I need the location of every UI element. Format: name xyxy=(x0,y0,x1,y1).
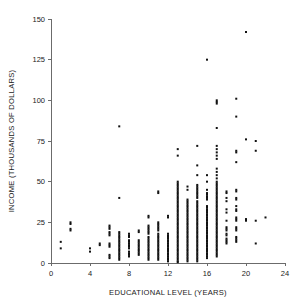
scatter-chart: 0255075100125150 04812162024 EDUCATIONAL… xyxy=(0,0,304,302)
data-point xyxy=(235,229,237,231)
data-point xyxy=(255,242,257,244)
data-point xyxy=(196,260,198,262)
y-tick-label: 75 xyxy=(37,137,45,146)
data-point xyxy=(138,254,140,256)
data-point xyxy=(235,241,237,243)
data-point xyxy=(157,192,159,194)
data-point xyxy=(255,140,257,142)
data-point xyxy=(235,190,237,192)
x-tick-label: 4 xyxy=(88,269,92,278)
x-tick-label: 20 xyxy=(242,269,250,278)
data-point xyxy=(235,210,237,212)
data-point xyxy=(255,220,257,222)
data-point xyxy=(196,164,198,166)
data-point xyxy=(109,228,111,230)
data-point xyxy=(206,181,208,183)
y-tick-label: 50 xyxy=(37,177,45,186)
data-point xyxy=(216,151,218,153)
data-point xyxy=(226,212,228,214)
data-point xyxy=(216,171,218,173)
data-points-layer xyxy=(60,31,267,263)
data-point xyxy=(235,205,237,207)
data-point xyxy=(245,220,247,222)
y-tick-label: 100 xyxy=(32,96,45,105)
x-tick-label: 12 xyxy=(164,269,172,278)
data-point xyxy=(216,103,218,105)
data-point xyxy=(235,220,237,222)
data-point xyxy=(187,260,189,262)
data-point xyxy=(187,186,189,188)
data-point xyxy=(206,189,208,191)
data-point xyxy=(89,251,91,253)
data-point xyxy=(60,247,62,249)
data-point xyxy=(226,234,228,236)
data-point xyxy=(255,150,257,152)
data-point xyxy=(109,234,111,236)
data-point xyxy=(245,138,247,140)
data-point xyxy=(70,223,72,225)
data-point xyxy=(226,220,228,222)
data-point xyxy=(226,242,228,244)
data-point xyxy=(148,216,150,218)
data-point xyxy=(70,229,72,231)
data-point xyxy=(226,229,228,231)
data-point xyxy=(206,199,208,201)
data-point xyxy=(216,255,218,257)
data-point xyxy=(128,255,130,257)
data-point xyxy=(118,259,120,261)
data-point xyxy=(235,199,237,201)
x-tick-label: 0 xyxy=(49,269,53,278)
y-axis-title: INCOME (THOUSANDS OF DOLLARS) xyxy=(7,69,16,212)
data-point xyxy=(216,127,218,129)
data-point xyxy=(128,247,130,249)
data-point xyxy=(226,200,228,202)
data-point xyxy=(206,174,208,176)
data-point xyxy=(216,148,218,150)
data-point xyxy=(216,158,218,160)
chart-canvas: 0255075100125150 04812162024 EDUCATIONAL… xyxy=(0,0,304,302)
data-point xyxy=(216,168,218,170)
data-point xyxy=(206,257,208,259)
data-point xyxy=(265,216,267,218)
x-tick-label: 16 xyxy=(203,269,211,278)
x-tick-label: 24 xyxy=(281,269,289,278)
y-tick-label: 25 xyxy=(37,218,45,227)
data-point xyxy=(60,241,62,243)
y-tick-label: 150 xyxy=(32,15,45,24)
data-point xyxy=(109,257,111,259)
data-point xyxy=(196,197,198,199)
data-point xyxy=(157,259,159,261)
x-axis: 04812162024 xyxy=(49,263,289,278)
data-point xyxy=(235,116,237,118)
data-point xyxy=(216,177,218,179)
data-point xyxy=(206,59,208,61)
data-point xyxy=(177,261,179,263)
data-point xyxy=(235,161,237,163)
data-point xyxy=(99,244,101,246)
data-point xyxy=(226,208,228,210)
data-point xyxy=(109,246,111,248)
x-tick-label: 8 xyxy=(127,269,131,278)
y-axis-ticks: 0255075100125150 xyxy=(32,15,51,268)
data-point xyxy=(226,192,228,194)
data-point xyxy=(89,247,91,249)
data-point xyxy=(216,155,218,157)
data-point xyxy=(118,125,120,127)
data-point xyxy=(235,151,237,153)
data-point xyxy=(226,197,228,199)
data-point xyxy=(216,145,218,147)
x-axis-title: EDUCATIONAL LEVEL (YEARS) xyxy=(109,288,227,297)
data-point xyxy=(177,148,179,150)
data-point xyxy=(138,231,140,233)
data-point xyxy=(148,259,150,261)
x-axis-ticks: 04812162024 xyxy=(49,263,289,278)
data-point xyxy=(167,260,169,262)
data-point xyxy=(187,189,189,191)
data-point xyxy=(196,145,198,147)
data-point xyxy=(167,216,169,218)
data-point xyxy=(177,155,179,157)
data-point xyxy=(118,197,120,199)
data-point xyxy=(245,31,247,33)
y-tick-label: 0 xyxy=(41,259,45,268)
data-point xyxy=(157,229,159,231)
